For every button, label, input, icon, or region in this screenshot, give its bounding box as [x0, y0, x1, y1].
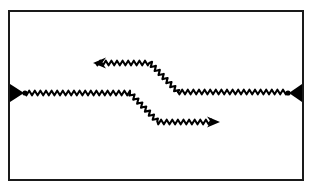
right-vertex	[285, 90, 290, 95]
feynman-diagram	[0, 0, 310, 191]
figure-canvas	[0, 0, 310, 191]
left-vertex	[22, 90, 27, 95]
figure-background	[0, 0, 310, 191]
